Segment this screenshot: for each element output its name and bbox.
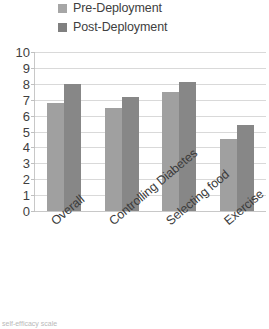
legend-item-pre-deployment: Pre-Deployment: [58, 2, 162, 15]
y-tick-label: 2: [0, 173, 30, 186]
y-tick-label: 10: [0, 46, 30, 59]
y-tick-label: 6: [0, 109, 30, 122]
chart-legend: Pre-Deployment Post-Deployment: [0, 0, 269, 44]
y-tick-label: 8: [0, 77, 30, 90]
y-tick-label: 5: [0, 125, 30, 138]
bar: [162, 92, 179, 211]
y-tick-label: 4: [0, 141, 30, 154]
bar: [105, 108, 122, 211]
footer-note: self-efficacy scale: [2, 320, 57, 328]
y-axis-tick-labels: 109876543210: [0, 44, 30, 224]
y-tick-label: 9: [0, 61, 30, 74]
legend-square-icon: [58, 23, 67, 32]
bar: [47, 103, 64, 211]
legend-label: Post-Deployment: [73, 21, 167, 34]
y-tick-label: 3: [0, 157, 30, 170]
legend-item-post-deployment: Post-Deployment: [58, 21, 167, 34]
x-axis-tick-labels: OverallControlling DiabetesSelecting foo…: [0, 212, 269, 329]
y-tick-label: 1: [0, 189, 30, 202]
y-tick-label: 7: [0, 93, 30, 106]
legend-square-icon: [58, 4, 67, 13]
legend-label: Pre-Deployment: [73, 2, 162, 15]
